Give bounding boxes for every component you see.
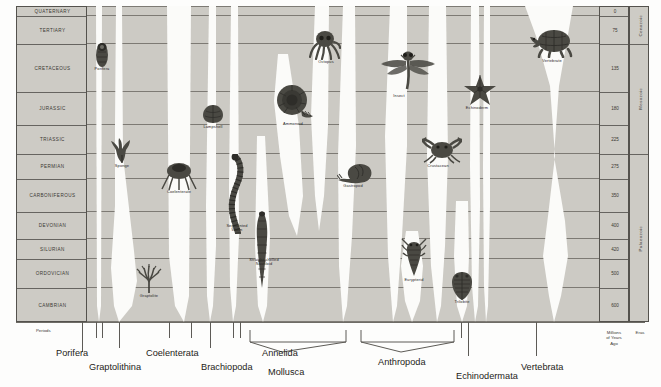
period-label-devonian: DEVONIAN [17, 212, 88, 239]
chart-plot-area: QUATERNARY TERTIARY CRETACEOUS JURASSIC … [16, 6, 645, 322]
time-tick-400: 400 [600, 212, 630, 239]
taxon-label-brachiopoda: Brachiopoda [201, 362, 253, 372]
time-tick-500: 500 [600, 259, 630, 288]
organism-label-trilobite: Trilobite [448, 300, 476, 304]
era-label-cenozoic: Cenozoic [630, 7, 650, 44]
segmented-worm-icon [224, 154, 246, 234]
era-footer-label: Eras [628, 330, 652, 335]
period-label-triassic: TRIASSIC [17, 125, 88, 154]
time-tick-420: 420 [600, 239, 630, 259]
taxon-label-echinodermata: Echinodermata [456, 371, 518, 381]
coelenterate-icon [161, 161, 197, 191]
taxon-label-graptolithina: Graptolithina [89, 362, 141, 372]
crustacean-crab-icon [422, 136, 462, 164]
period-label-quaternary: QUATERNARY [17, 7, 88, 16]
period-label-cretaceous: CRETACEOUS [17, 44, 88, 92]
geological-time-chart: QUATERNARY TERTIARY CRETACEOUS JURASSIC … [0, 0, 661, 387]
period-label-jurassic: JURASSIC [17, 92, 88, 125]
organism-label-segmented-worm: Segmented Worm [222, 224, 252, 233]
organism-label-vertebrate: Vertebrate [534, 59, 570, 63]
lampshell-icon [202, 104, 224, 124]
organism-label-eurypterid: Eurypterid [397, 278, 431, 282]
time-tick-135: 135 [600, 44, 630, 92]
period-label-silurian: SILURIAN [17, 239, 88, 259]
brace-group [16, 322, 645, 362]
taxon-label-annelida: Annelida [262, 348, 298, 358]
era-label-mesozoic: Mesozoic [630, 44, 650, 154]
time-tick-350: 350 [600, 179, 630, 212]
organism-label-crustacean: Crustacean [420, 164, 456, 168]
organism-label-gastropod: Gastropod [337, 184, 369, 188]
organism-label-echinoderm: Echinoderm [456, 106, 498, 110]
eurypterid-icon [401, 238, 427, 278]
organism-label-insect: Insect [388, 94, 410, 98]
taxon-label-anthropoda: Anthropoda [378, 357, 426, 367]
time-tick-225: 225 [600, 125, 630, 154]
ammonoid-icon [275, 84, 315, 120]
era-column: Cenozoic Mesozoic Palaeozoic [629, 6, 649, 322]
brace-anthropoda2 [361, 342, 454, 352]
vertebrate-turtle-icon [528, 28, 576, 58]
band-brachiopoda [206, 6, 216, 322]
time-tick-0: 0 [600, 7, 630, 16]
gastropod-icon [337, 158, 373, 184]
taxon-axis: Porifera Graptolithina Coelenterata Brac… [16, 322, 645, 386]
time-scale-column: 0 75 135 180 225 275 350 400 420 500 600 [599, 6, 629, 322]
organism-label-sponge: Sponge [109, 164, 135, 168]
echinoderm-starfish-icon [463, 74, 497, 106]
time-tick-180: 180 [600, 92, 630, 125]
band-ammonoid [274, 54, 303, 236]
taxon-label-mollusca: Mollusca [268, 367, 304, 377]
period-label-carboniferous: CARBONIFEROUS [17, 179, 88, 212]
period-label-ordovician: ORDOVICIAN [17, 259, 88, 288]
time-tick-275: 275 [600, 154, 630, 179]
time-tick-600: 600 [600, 288, 630, 323]
era-text-cenozoic: Cenozoic [638, 15, 643, 37]
taxon-label-porifera: Porifera [56, 348, 88, 358]
insect-dragonfly-icon [380, 48, 436, 90]
organism-label-ammonoid: Ammonoid [274, 122, 312, 126]
octopus-icon [309, 30, 341, 60]
organism-label-coelenterate: Coelenterate [158, 190, 200, 194]
brace-mollusca [250, 330, 346, 342]
brace-anthropoda [361, 330, 454, 342]
time-tick-75: 75 [600, 16, 630, 44]
organism-label-porifera: Porifera [88, 67, 116, 71]
periods-footer-label: Periods [36, 328, 51, 333]
graptolite-icon [136, 264, 162, 294]
taxon-label-vertebrata: Vertebrata [521, 362, 563, 372]
period-column: QUATERNARY TERTIARY CRETACEOUS JURASSIC … [16, 6, 87, 322]
period-label-permian: PERMIAN [17, 154, 88, 179]
period-label-cambrian: CAMBRIAN [17, 288, 88, 323]
trilobite-icon [450, 271, 474, 301]
organism-label-nautiloid: Straight-shelled Nautiloid [238, 258, 290, 267]
taxon-label-coelenterata: Coelenterata [146, 348, 199, 358]
organism-label-octopus: Octopus [313, 60, 339, 64]
organism-label-lampshell: Lampshell [196, 125, 230, 129]
band-echinodermata-2 [483, 6, 490, 322]
era-text-palaeozoic: Palaeozoic [638, 226, 643, 251]
porifera-sponge-icon [93, 42, 111, 68]
sponge-icon [108, 137, 136, 165]
organism-label-graptolite: Graptolite [126, 294, 172, 298]
period-label-tertiary: TERTIARY [17, 16, 88, 44]
era-label-palaeozoic: Palaeozoic [630, 154, 650, 323]
nautiloid-icon [254, 211, 270, 289]
era-text-mesozoic: Mesozoic [638, 88, 643, 110]
